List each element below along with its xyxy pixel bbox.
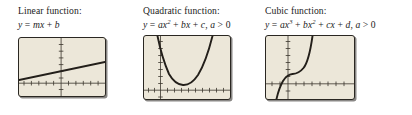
- linear-caption-title: Linear function:: [18, 0, 136, 18]
- quadratic-op-greater-than: >: [215, 19, 226, 30]
- panel-cubic-function: Cubic function: y = ax3 + bx2 + cx + d, …: [265, 0, 411, 100]
- linear-op-equals: =: [22, 19, 33, 30]
- linear-var-b: b: [55, 19, 60, 30]
- quadratic-op-plus-1: +: [171, 19, 182, 30]
- function-graphs-figure: Linear function: y = mx + b: [0, 0, 412, 115]
- quadratic-function-curve: [158, 36, 213, 85]
- cubic-caption-title: Cubic function:: [265, 0, 411, 18]
- quadratic-op-plus-2: +: [190, 19, 201, 30]
- quadratic-graph-svg: [144, 36, 230, 99]
- cubic-op-plus-2: +: [316, 19, 327, 30]
- panel-quadratic-function: Quadratic function: y = ax2 + bx + c, a …: [143, 0, 267, 100]
- linear-var-m: m: [33, 19, 40, 30]
- quadratic-caption-title: Quadratic function:: [143, 0, 267, 18]
- cubic-op-plus-3: +: [335, 19, 346, 30]
- cubic-op-plus-1: +: [293, 19, 304, 30]
- cubic-op-equals: =: [269, 19, 280, 30]
- linear-graph-svg: [19, 38, 105, 96]
- panel-linear-function: Linear function: y = mx + b: [18, 0, 136, 97]
- cubic-caption-formula: y = ax3 + bx2 + cx + d, a > 0: [265, 18, 411, 32]
- quadratic-condition-zero: 0: [226, 19, 231, 30]
- quadratic-caption-formula: y = ax2 + bx + c, a > 0: [143, 18, 267, 32]
- cubic-graph-svg: [266, 36, 354, 99]
- linear-op-plus: +: [44, 19, 55, 30]
- cubic-function-curve: [277, 36, 313, 99]
- quadratic-graph-screen: [143, 35, 231, 100]
- linear-caption-formula: y = mx + b: [18, 18, 136, 32]
- linear-graph-screen: [18, 37, 106, 97]
- cubic-graph-screen: [265, 35, 355, 100]
- cubic-condition-zero: 0: [371, 19, 376, 30]
- quadratic-op-equals: =: [147, 19, 158, 30]
- cubic-op-greater-than: >: [360, 19, 371, 30]
